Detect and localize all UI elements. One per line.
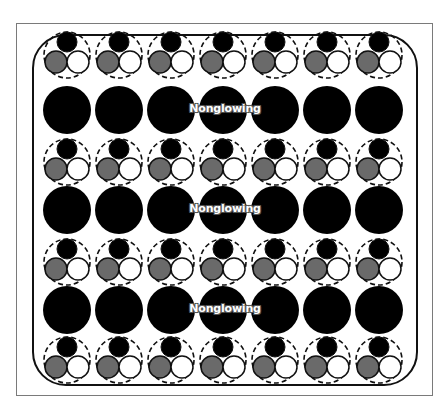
black-particle	[369, 139, 389, 159]
gray-particle	[253, 158, 275, 180]
black-particle	[369, 337, 389, 357]
white-particle	[379, 158, 401, 180]
nonglowing-label-2: Nonglowing	[189, 202, 260, 215]
large-nonglowing-particle	[303, 186, 351, 234]
black-particle	[317, 32, 337, 52]
gray-particle	[97, 158, 119, 180]
white-particle	[67, 356, 89, 378]
black-particle	[369, 239, 389, 259]
diagram-canvas: Nonglowing Nonglowing Nonglowing	[0, 0, 448, 408]
white-particle	[67, 258, 89, 280]
large-nonglowing-particle	[355, 86, 403, 134]
gray-particle	[253, 356, 275, 378]
black-particle	[57, 32, 77, 52]
black-particle	[57, 139, 77, 159]
black-particle	[161, 337, 181, 357]
white-particle	[275, 158, 297, 180]
gray-particle	[45, 258, 67, 280]
gray-particle	[305, 51, 327, 73]
black-particle	[213, 32, 233, 52]
gray-particle	[97, 356, 119, 378]
black-particle	[109, 32, 129, 52]
black-particle	[57, 337, 77, 357]
gray-particle	[149, 158, 171, 180]
black-particle	[265, 139, 285, 159]
white-particle	[275, 356, 297, 378]
black-particle	[57, 239, 77, 259]
white-particle	[379, 356, 401, 378]
gray-particle	[253, 258, 275, 280]
gray-particle	[201, 158, 223, 180]
large-nonglowing-particle	[95, 86, 143, 134]
black-particle	[109, 337, 129, 357]
black-particle	[213, 139, 233, 159]
black-particle	[213, 337, 233, 357]
black-particle	[109, 139, 129, 159]
white-particle	[119, 158, 141, 180]
large-nonglowing-particle	[303, 286, 351, 334]
gray-particle	[357, 258, 379, 280]
black-particle	[161, 139, 181, 159]
nonglowing-label-1: Nonglowing	[189, 102, 260, 115]
white-particle	[119, 51, 141, 73]
white-particle	[119, 356, 141, 378]
gray-particle	[149, 356, 171, 378]
gray-particle	[305, 356, 327, 378]
gray-particle	[201, 258, 223, 280]
white-particle	[171, 158, 193, 180]
white-particle	[67, 51, 89, 73]
white-particle	[171, 51, 193, 73]
white-particle	[327, 158, 349, 180]
black-particle	[317, 337, 337, 357]
large-nonglowing-particle	[95, 286, 143, 334]
large-nonglowing-particle	[355, 286, 403, 334]
gray-particle	[45, 158, 67, 180]
gray-particle	[45, 51, 67, 73]
white-particle	[327, 51, 349, 73]
gray-particle	[357, 51, 379, 73]
large-nonglowing-particle	[147, 286, 195, 334]
large-nonglowing-particle	[355, 186, 403, 234]
gray-particle	[45, 356, 67, 378]
gray-particle	[305, 258, 327, 280]
white-particle	[327, 356, 349, 378]
gray-particle	[149, 258, 171, 280]
black-particle	[213, 239, 233, 259]
white-particle	[223, 51, 245, 73]
black-particle	[369, 32, 389, 52]
gray-particle	[201, 356, 223, 378]
black-particle	[265, 239, 285, 259]
black-particle	[161, 239, 181, 259]
large-nonglowing-particle	[147, 186, 195, 234]
gray-particle	[97, 258, 119, 280]
white-particle	[327, 258, 349, 280]
large-nonglowing-particle	[303, 86, 351, 134]
white-particle	[171, 258, 193, 280]
white-particle	[379, 258, 401, 280]
gray-particle	[253, 51, 275, 73]
black-particle	[265, 337, 285, 357]
white-particle	[119, 258, 141, 280]
gray-particle	[357, 158, 379, 180]
gray-particle	[149, 51, 171, 73]
black-particle	[317, 239, 337, 259]
gray-particle	[305, 158, 327, 180]
large-nonglowing-particle	[43, 186, 91, 234]
large-nonglowing-particle	[95, 186, 143, 234]
white-particle	[379, 51, 401, 73]
white-particle	[67, 158, 89, 180]
nonglowing-label-3: Nonglowing	[189, 302, 260, 315]
gray-particle	[97, 51, 119, 73]
large-nonglowing-particle	[147, 86, 195, 134]
large-nonglowing-particle	[43, 286, 91, 334]
black-particle	[265, 32, 285, 52]
black-particle	[109, 239, 129, 259]
white-particle	[223, 356, 245, 378]
black-particle	[161, 32, 181, 52]
gray-particle	[357, 356, 379, 378]
white-particle	[275, 258, 297, 280]
white-particle	[223, 258, 245, 280]
black-particle	[317, 139, 337, 159]
gray-particle	[201, 51, 223, 73]
white-particle	[275, 51, 297, 73]
